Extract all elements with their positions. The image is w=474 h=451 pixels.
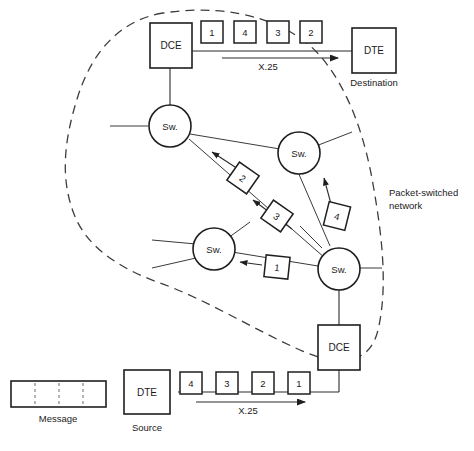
- dte-source-label: DTE: [137, 387, 157, 398]
- cloud-label-line1: Packet-switched: [389, 187, 458, 198]
- link-switch-c-left-stub-upper: [152, 240, 196, 244]
- message-caption: Message: [39, 413, 78, 424]
- packet-top-2-label: 4: [242, 27, 247, 38]
- packet-bottom-2-label: 3: [224, 378, 229, 389]
- packet-bottom-4-label: 1: [296, 378, 301, 389]
- diagram-canvas: DCE 1 4 3 2 X.25 DTE Destination Sw. Sw.…: [0, 0, 474, 451]
- x25-top-label: X.25: [258, 61, 278, 72]
- dce-top-label: DCE: [160, 40, 181, 51]
- dte-source-caption: Source: [132, 422, 162, 433]
- packet-top-1-label: 1: [209, 27, 214, 38]
- packet-top-4-label: 2: [308, 27, 313, 38]
- dte-destination-caption: Destination: [350, 77, 398, 88]
- packet-network-1-label: 1: [274, 262, 280, 273]
- packet-switched-network-diagram: DCE 1 4 3 2 X.25 DTE Destination Sw. Sw.…: [0, 0, 474, 451]
- link-switch-a-to-switch-b: [190, 134, 280, 149]
- switch-a-label: Sw.: [162, 121, 177, 132]
- packet-switched-network-boundary: [65, 10, 383, 360]
- cloud-label-line2: network: [389, 200, 423, 211]
- switch-d-label: Sw.: [331, 264, 346, 275]
- link-switch-b-upper-stub: [316, 132, 352, 146]
- packet-bottom-1-label: 4: [188, 378, 193, 389]
- link-switch-c-upper-right-stub: [228, 222, 250, 238]
- switch-b-label: Sw.: [291, 148, 306, 159]
- x25-bottom-label: X.25: [238, 405, 258, 416]
- dte-destination-label: DTE: [364, 45, 384, 56]
- dce-bottom-label: DCE: [328, 342, 349, 353]
- switch-c-label: Sw.: [206, 244, 221, 255]
- link-switch-d-upper-left-stub: [300, 226, 322, 248]
- link-switch-c-left-stub-lower: [152, 258, 196, 268]
- packet-1-path-arrow: [240, 262, 262, 265]
- packet-top-3-label: 3: [275, 27, 280, 38]
- packet-bottom-3-label: 2: [260, 378, 265, 389]
